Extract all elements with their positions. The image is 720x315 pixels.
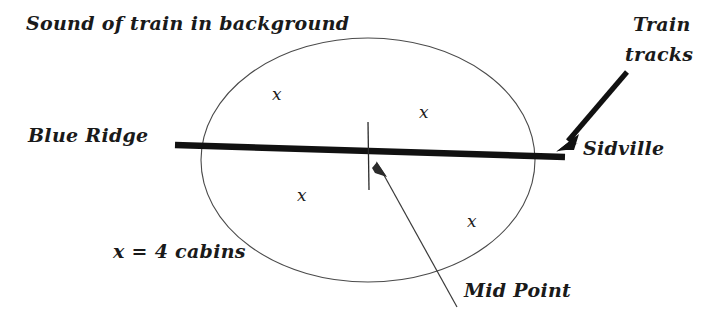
cabin-mark-bottom-right: x <box>467 213 477 230</box>
mid-point-tick <box>368 122 369 190</box>
mid-point-label: Mid Point <box>464 281 571 301</box>
train-tracks-label-line1: Train <box>633 15 691 35</box>
cabin-mark-bottom-left: x <box>297 187 307 204</box>
diagram-canvas: Sound of train in background Blue Ridge … <box>0 0 720 315</box>
cabin-mark-top-left: x <box>272 86 282 103</box>
train-track-line <box>175 145 565 157</box>
sound-of-train-label: Sound of train in background <box>26 14 349 34</box>
blue-ridge-label: Blue Ridge <box>28 126 148 146</box>
area-ellipse <box>201 38 535 282</box>
cabin-mark-top-right: x <box>419 104 429 121</box>
train-tracks-label-line2: tracks <box>625 45 693 65</box>
sidville-label: Sidville <box>583 139 664 159</box>
mid-point-arrow <box>372 161 457 307</box>
cabin-legend-label: x = 4 cabins <box>113 242 246 262</box>
